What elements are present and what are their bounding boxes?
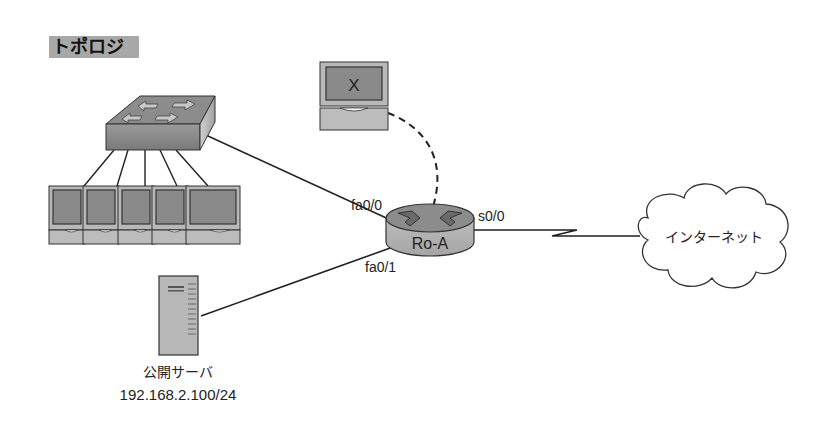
link-router-internet-serial (474, 230, 640, 236)
pc-icon[interactable] (186, 186, 240, 244)
link-admin-router-dashed (388, 113, 437, 210)
router-icon[interactable]: Ro-A (386, 204, 474, 256)
pc-icon[interactable] (152, 186, 188, 244)
interface-label-fa00: fa0/0 (351, 197, 382, 213)
pc-icon[interactable] (118, 186, 154, 244)
admin-pc-screen-label: X (348, 76, 359, 95)
internet-cloud-icon[interactable]: インターネット (638, 184, 788, 288)
server-icon[interactable] (159, 276, 198, 355)
link-switch-pc-2 (117, 150, 128, 186)
link-server-router (201, 247, 393, 316)
link-switch-pc-4 (160, 150, 177, 186)
link-switch-pc-5 (176, 150, 208, 186)
topology-diagram: X Ro-A インターネット fa0/0 fa0/1 s0/0 公開サーバ (0, 0, 838, 423)
server-ip-label: 192.168.2.100/24 (120, 386, 237, 403)
pc-icon[interactable] (83, 186, 119, 244)
server-name-label: 公開サーバ (143, 364, 213, 380)
link-switch-pc-1 (84, 150, 114, 186)
pc-group (49, 186, 240, 244)
interface-label-s00: s0/0 (478, 208, 505, 224)
pc-icon[interactable] (49, 186, 85, 244)
interface-label-fa01: fa0/1 (365, 259, 396, 275)
switch-icon[interactable] (106, 96, 215, 150)
router-label: Ro-A (412, 235, 449, 252)
admin-pc-icon[interactable]: X (320, 62, 388, 130)
internet-label: インターネット (665, 229, 763, 245)
